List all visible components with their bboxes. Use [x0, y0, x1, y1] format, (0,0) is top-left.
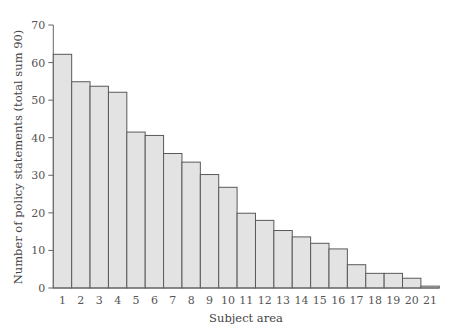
bar [219, 187, 237, 288]
x-tick-label: 18 [368, 294, 382, 307]
x-tick-label: 11 [239, 294, 253, 307]
bar [366, 273, 384, 288]
x-tick-label: 1 [59, 294, 66, 307]
y-tick-label: 60 [31, 57, 45, 70]
bar [72, 82, 90, 288]
x-tick-label: 20 [405, 294, 419, 307]
bar [145, 135, 163, 288]
y-tick-label: 10 [31, 244, 45, 257]
x-tick-label: 3 [96, 294, 103, 307]
x-tick-label: 16 [331, 294, 345, 307]
x-tick-label: 13 [276, 294, 290, 307]
bar [311, 243, 329, 288]
y-axis: 010203040506070 [31, 19, 53, 295]
y-tick-label: 50 [31, 94, 45, 107]
y-axis-title: Number of policy statements (total sum 9… [11, 30, 25, 285]
bar-chart: 010203040506070 123456789101112131415161… [0, 0, 457, 329]
x-tick-label: 2 [77, 294, 84, 307]
bar [127, 132, 145, 288]
x-tick-label: 15 [313, 294, 327, 307]
bar [200, 175, 218, 288]
bar [384, 273, 402, 288]
x-axis-title: Subject area [209, 311, 283, 325]
bar [164, 153, 182, 288]
x-axis: 123456789101112131415161718192021 [53, 288, 439, 307]
x-tick-label: 17 [350, 294, 364, 307]
bar [182, 162, 200, 288]
x-tick-label: 5 [133, 294, 140, 307]
x-tick-label: 21 [423, 294, 437, 307]
bar [90, 86, 108, 288]
bar [274, 231, 292, 288]
bars [53, 54, 439, 288]
x-tick-label: 19 [386, 294, 400, 307]
y-tick-label: 0 [38, 282, 45, 295]
x-tick-label: 12 [258, 294, 272, 307]
bar [292, 237, 310, 288]
bar [237, 213, 255, 288]
x-tick-label: 7 [169, 294, 176, 307]
y-tick-label: 40 [31, 132, 45, 145]
x-tick-label: 10 [221, 294, 235, 307]
bar [329, 249, 347, 288]
y-tick-label: 30 [31, 169, 45, 182]
bar [108, 92, 126, 288]
bar [347, 265, 365, 288]
x-tick-label: 8 [188, 294, 195, 307]
bar [53, 54, 71, 288]
x-tick-label: 6 [151, 294, 158, 307]
y-tick-label: 20 [31, 207, 45, 220]
bar [403, 278, 421, 288]
x-tick-label: 4 [114, 294, 121, 307]
y-tick-label: 70 [31, 19, 45, 32]
x-tick-label: 9 [206, 294, 213, 307]
bar [255, 220, 273, 288]
x-tick-label: 14 [294, 294, 308, 307]
